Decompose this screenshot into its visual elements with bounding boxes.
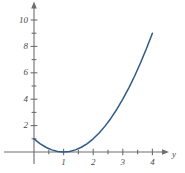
figure-container: 1234 246810 y <box>0 0 185 173</box>
x-tick-label: 3 <box>113 158 133 167</box>
x-axis-arrow-icon <box>162 149 169 155</box>
y-tick-label: 10 <box>6 16 28 25</box>
x-axis <box>4 149 169 155</box>
y-axis-arrow-icon <box>31 2 37 9</box>
y-tick-label: 8 <box>6 42 28 51</box>
plot-area <box>0 0 185 173</box>
y-tick-label: 4 <box>6 95 28 104</box>
y-tick-label: 6 <box>6 68 28 77</box>
x-tick-label: 2 <box>83 158 103 167</box>
data-curve <box>34 33 152 152</box>
y-tick-label: 2 <box>6 121 28 130</box>
x-axis-label: y <box>172 150 176 159</box>
x-tick-label: 1 <box>54 158 74 167</box>
x-tick-label: 4 <box>142 158 162 167</box>
